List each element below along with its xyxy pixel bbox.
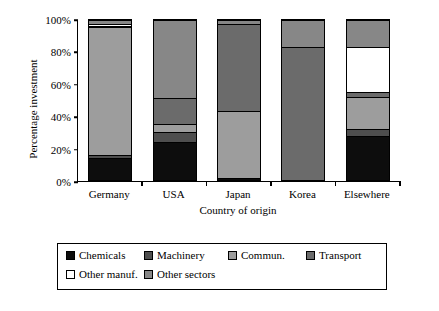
y-axis-tick-label: 20% [25, 144, 78, 156]
bar-segment-commun- [346, 97, 390, 129]
legend-label: Other manuf. [79, 268, 138, 280]
bar-segment-other-sectors [153, 19, 197, 98]
x-axis-tick-label-japan: Japan [225, 188, 250, 200]
x-axis-tick-label-korea: Korea [289, 188, 316, 200]
x-axis-tick-mark [141, 181, 143, 186]
x-axis-tick-mark [335, 181, 337, 186]
y-axis-tick-mark [74, 116, 78, 118]
y-axis-tick-label: 100% [25, 14, 78, 26]
legend-item-other-manuf-[interactable]: Other manuf. [66, 268, 138, 280]
bar-usa [153, 20, 197, 181]
y-axis-tick-mark [74, 52, 78, 54]
y-axis-tick-label: 80% [25, 46, 78, 58]
x-axis-tick-label-germany: Germany [89, 188, 130, 200]
legend-item-commun-[interactable]: Commun. [228, 249, 285, 261]
y-axis-tick-label: 40% [25, 111, 78, 123]
bar-segment-machinery [153, 132, 197, 142]
legend-label: Machinery [157, 249, 205, 261]
x-axis-title: Country of origin [77, 204, 399, 216]
bar-segment-machinery [346, 129, 390, 135]
x-axis-tick-mark [206, 181, 208, 186]
bar-segment-transport [217, 24, 261, 111]
bar-segment-chemicals [217, 178, 261, 181]
legend-item-transport[interactable]: Transport [306, 249, 361, 261]
legend-item-machinery[interactable]: Machinery [144, 249, 205, 261]
x-axis-tick-mark [270, 181, 272, 186]
legend-swatch-icon [306, 251, 315, 260]
legend-label: Commun. [241, 249, 285, 261]
bar-segment-other-manuf- [346, 47, 390, 92]
bar-segment-transport [281, 47, 325, 181]
y-axis-tick-label: 60% [25, 79, 78, 91]
legend-swatch-icon [144, 270, 153, 279]
bar-elsewhere [346, 20, 390, 181]
bar-segment-chemicals [346, 136, 390, 181]
bar-segment-other-sectors [346, 19, 390, 47]
legend: ChemicalsMachineryCommun.TransportOther … [57, 243, 387, 290]
bar-segment-transport [88, 26, 132, 28]
x-axis-tick-labels: GermanyUSAJapanKoreaElsewhere [77, 188, 399, 204]
y-axis-tick-mark [74, 149, 78, 151]
plot-inner: 0%20%40%60%80%100% [78, 20, 399, 181]
y-axis-tick-mark [74, 84, 78, 86]
bar-segment-other-manuf- [88, 24, 132, 26]
bar-segment-other-sectors [281, 19, 325, 47]
legend-label: Transport [319, 249, 361, 261]
legend-swatch-icon [228, 251, 237, 260]
legend-item-chemicals[interactable]: Chemicals [66, 249, 125, 261]
bar-germany [88, 20, 132, 181]
x-axis-tick-label-usa: USA [163, 188, 185, 200]
plot-area: 0%20%40%60%80%100% [77, 20, 399, 182]
bar-segment-commun- [217, 111, 261, 177]
bar-segment-other-sectors [217, 19, 261, 24]
legend-label: Chemicals [79, 249, 125, 261]
legend-item-other-sectors[interactable]: Other sectors [144, 268, 215, 280]
stacked-bar-chart: Percentage investment 0%20%40%60%80%100%… [0, 0, 439, 311]
legend-swatch-icon [144, 251, 153, 260]
bar-japan [217, 20, 261, 181]
bar-segment-chemicals [153, 142, 197, 181]
x-axis-tick-label-elsewhere: Elsewhere [344, 188, 390, 200]
bar-segment-transport [153, 98, 197, 124]
bar-segment-commun- [153, 124, 197, 132]
bar-segment-commun- [88, 27, 132, 155]
y-axis-tick-label: 0% [25, 176, 78, 188]
bar-segment-other-sectors [88, 19, 132, 24]
bar-segment-chemicals [88, 158, 132, 181]
x-axis-tick-mark [399, 181, 401, 186]
legend-label: Other sectors [157, 268, 215, 280]
y-axis-tick-mark [74, 181, 78, 183]
bar-korea [281, 20, 325, 181]
legend-swatch-icon [66, 270, 75, 279]
y-axis-tick-mark [74, 19, 78, 21]
bar-segment-machinery [88, 155, 132, 158]
legend-swatch-icon [66, 251, 75, 260]
bar-segment-transport [346, 92, 390, 97]
